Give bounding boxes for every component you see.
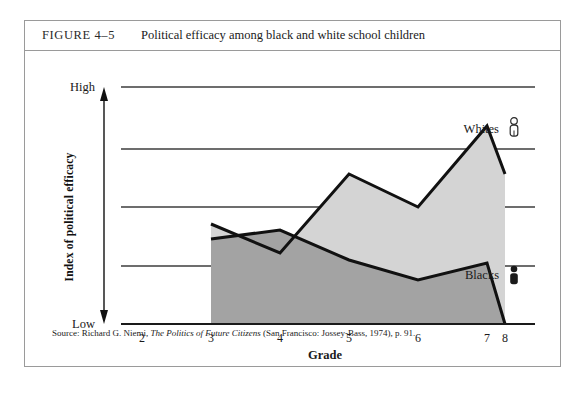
y-axis-high-label: High	[70, 80, 96, 94]
series-label-whites: Whites	[464, 122, 500, 136]
figure-box: FIGURE 4–5 Political efficacy among blac…	[24, 20, 561, 367]
source-prefix: Source: Richard G. Niemi,	[52, 328, 150, 338]
y-axis-arrow	[100, 87, 108, 324]
source-note: Source: Richard G. Niemi, The Politics o…	[52, 328, 415, 338]
x-tick-label: 7	[484, 331, 490, 345]
person-filled-icon	[510, 266, 518, 285]
source-title: The Politics of Future Citizens	[150, 328, 260, 338]
series-label-blacks: Blacks	[465, 268, 499, 282]
figure-number: FIGURE 4–5	[42, 28, 115, 43]
chart-plot-area: Index of political efficacy	[25, 51, 562, 368]
source-suffix: (San Francisco: Jossey-Bass, 1974), p. 9…	[261, 328, 416, 338]
x-axis-title: Grade	[308, 348, 342, 362]
x-tick-label: 6	[415, 331, 421, 345]
figure-title: Political efficacy among black and white…	[141, 28, 425, 43]
person-outline-icon	[510, 118, 518, 137]
efficacy-area-chart: High Low 2 3 4 5 6 7 8 Grade Whites	[25, 51, 562, 368]
figure-header: FIGURE 4–5 Political efficacy among blac…	[25, 21, 560, 51]
x-tick-label: 8	[502, 331, 508, 345]
